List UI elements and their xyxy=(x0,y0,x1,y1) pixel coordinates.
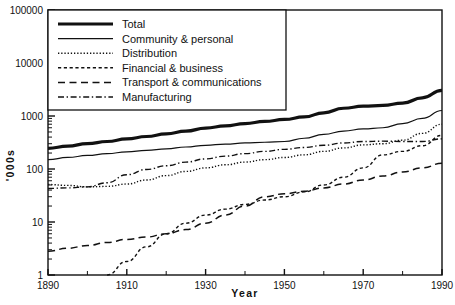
legend-label: Manufacturing xyxy=(122,91,192,103)
legend-label: Community & personal xyxy=(122,33,233,45)
y-tick-label: 100 xyxy=(26,164,43,175)
legend-label: Distribution xyxy=(122,47,177,59)
x-tick-label: 1970 xyxy=(352,280,375,291)
series-line xyxy=(107,135,442,275)
chart-svg: 110100100010000100000 189019101930195019… xyxy=(0,0,455,305)
x-tick-label: 1930 xyxy=(194,280,217,291)
x-tick-label: 1990 xyxy=(431,280,454,291)
legend-label: Total xyxy=(122,18,145,30)
data-series-layer xyxy=(48,90,442,275)
y-tick-label: 1000 xyxy=(21,111,44,122)
legend: TotalCommunity & personalDistributionFin… xyxy=(48,10,286,110)
series-line xyxy=(48,163,442,251)
y-tick-label: 1 xyxy=(37,270,43,281)
x-tick-label: 1950 xyxy=(273,280,296,291)
y-axis-tick-labels: 110100100010000100000 xyxy=(10,5,44,281)
x-tick-label: 1910 xyxy=(116,280,139,291)
y-tick-label: 10 xyxy=(32,217,44,228)
series-line xyxy=(48,111,442,160)
y-tick-label: 10000 xyxy=(15,58,43,69)
x-axis-ticks xyxy=(48,269,442,275)
legend-label: Transport & communications xyxy=(122,76,262,88)
chart-figure: 110100100010000100000 189019101930195019… xyxy=(0,0,455,305)
x-axis-title: Year xyxy=(231,287,258,299)
x-tick-label: 1890 xyxy=(37,280,60,291)
series-line xyxy=(48,124,442,187)
y-axis-title: '000s xyxy=(4,149,16,181)
y-tick-label: 100000 xyxy=(10,5,44,16)
legend-label: Financial & business xyxy=(122,62,223,74)
series-line xyxy=(48,139,442,189)
